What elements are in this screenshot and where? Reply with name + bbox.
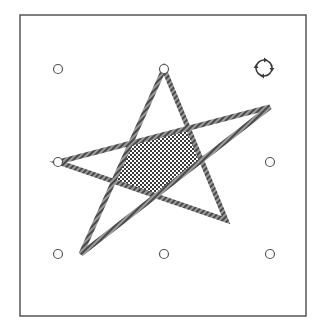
puzzle-board: Rotate — [0, 0, 320, 333]
peg-peg-2-1[interactable] — [266, 158, 275, 167]
rotate-button[interactable]: Rotate — [252, 56, 276, 80]
peg-peg-0-0[interactable] — [54, 65, 63, 74]
puzzle-canvas — [0, 0, 320, 333]
peg-peg-2-2[interactable] — [266, 250, 275, 259]
peg-peg-0-2[interactable] — [54, 250, 63, 259]
peg-peg-0-1[interactable] — [54, 158, 63, 167]
rotate-icon — [252, 56, 276, 80]
peg-peg-1-2[interactable] — [160, 250, 169, 259]
peg-peg-1-0[interactable] — [160, 65, 169, 74]
